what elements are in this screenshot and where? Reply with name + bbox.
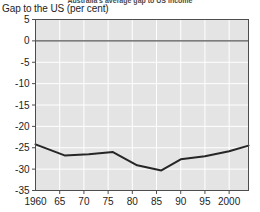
x-tick-label: 85 — [151, 196, 163, 207]
x-tick-label: 1960 — [24, 196, 47, 207]
y-tick-label: 5 — [24, 14, 30, 25]
x-tick-label: 70 — [78, 196, 90, 207]
line-chart-plot: 50-5-10-15-20-25-30-35196065707580859095… — [0, 0, 260, 212]
x-tick-label: 2000 — [218, 196, 241, 207]
x-tick-label: 65 — [54, 196, 66, 207]
y-tick-label: -35 — [15, 185, 30, 196]
y-tick-label: 0 — [24, 35, 30, 46]
y-tick-label: -5 — [21, 57, 30, 68]
y-tick-label: -15 — [15, 100, 30, 111]
x-tick-label: 95 — [199, 196, 211, 207]
y-tick-label: -20 — [15, 121, 30, 132]
x-tick-label: 90 — [175, 196, 187, 207]
y-tick-label: -25 — [15, 142, 30, 153]
x-tick-label: 75 — [103, 196, 115, 207]
chart-figure: Australia's average gap to US income Gap… — [0, 0, 260, 212]
y-tick-label: -30 — [15, 164, 30, 175]
x-tick-label: 80 — [127, 196, 139, 207]
y-tick-label: -10 — [15, 78, 30, 89]
